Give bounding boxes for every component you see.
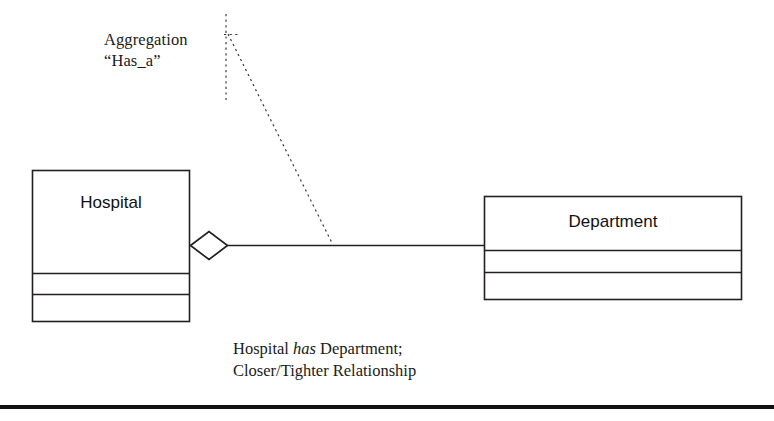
footer-rule — [0, 405, 774, 409]
diagram-caption: Hospital has Department; Closer/Tighter … — [233, 338, 416, 381]
aggregation-annotation-line-1: Aggregation — [104, 29, 188, 50]
diagram-page: Aggregation “Has_a” Hospital Department … — [0, 0, 774, 421]
diagram-caption-line-1: Hospital has Department; — [233, 338, 416, 360]
aggregation-diamond-icon[interactable] — [191, 232, 228, 260]
class-name-hospital: Hospital — [32, 193, 190, 213]
leader-line-diagonal-dotted — [228, 34, 332, 243]
class-name-department: Department — [484, 212, 742, 232]
aggregation-annotation-line-2: “Has_a” — [104, 50, 188, 71]
caption-line-1-post: Department; — [316, 339, 403, 358]
diagram-caption-line-2: Closer/Tighter Relationship — [233, 360, 416, 382]
caption-line-1-emphasis: has — [293, 339, 316, 358]
caption-line-1-pre: Hospital — [233, 339, 293, 358]
aggregation-annotation: Aggregation “Has_a” — [104, 29, 188, 71]
